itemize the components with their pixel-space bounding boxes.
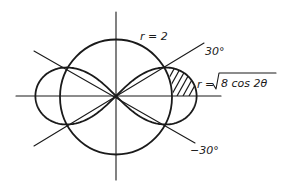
lemniscate-label-lhs: r = xyxy=(197,78,214,91)
angle-30-label: 30° xyxy=(205,45,225,58)
circle-label: r = 2 xyxy=(140,30,168,43)
polar-diagram: r = 2 30° −30° r = 8 cos 2θ xyxy=(0,0,289,185)
lemniscate-label-radicand: 8 cos 2θ xyxy=(221,77,267,90)
lemniscate-label: r = 8 cos 2θ xyxy=(197,73,276,91)
angle-neg-30-label: −30° xyxy=(190,144,219,157)
